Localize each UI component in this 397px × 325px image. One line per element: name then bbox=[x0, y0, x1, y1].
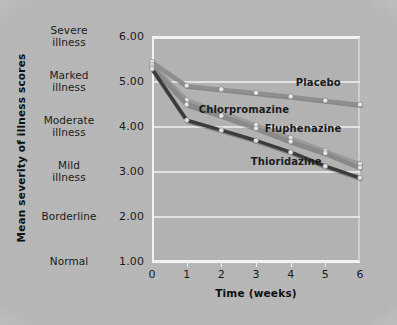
y-axis-category-label: Borderline bbox=[28, 211, 110, 223]
data-point-marker bbox=[358, 102, 363, 107]
y-axis-category-line: illness bbox=[28, 37, 110, 49]
y-axis-category-line: Mild bbox=[28, 160, 110, 172]
y-axis-tick-label: 4.00 bbox=[110, 120, 144, 133]
x-axis-tick-label: 1 bbox=[179, 268, 195, 281]
figure-root: SevereillnessMarkedillnessModerateillnes… bbox=[0, 0, 397, 325]
data-point-marker bbox=[254, 138, 259, 143]
x-axis-tick-mark bbox=[187, 262, 188, 267]
series-label-chlorpromazine: Chlorpromazine bbox=[199, 104, 289, 115]
data-point-marker bbox=[358, 175, 363, 180]
y-axis-category-line: illness bbox=[28, 127, 110, 139]
data-point-marker bbox=[288, 139, 293, 144]
data-point-marker bbox=[323, 98, 328, 103]
data-point-marker bbox=[254, 126, 259, 131]
series-label-thioridazine: Thioridazine bbox=[251, 156, 322, 167]
y-axis-tick-label: 2.00 bbox=[110, 210, 144, 223]
y-axis-category-line: Normal bbox=[28, 256, 110, 268]
y-axis-category-label: Moderateillness bbox=[28, 115, 110, 138]
y-axis-tick-label: 5.00 bbox=[110, 75, 144, 88]
x-axis-tick-label: 5 bbox=[317, 268, 333, 281]
y-axis-title: Mean severity of illness scores bbox=[15, 53, 27, 243]
y-axis-category-label: Severeillness bbox=[28, 25, 110, 48]
gridlines bbox=[152, 37, 360, 262]
data-point-marker bbox=[219, 128, 224, 133]
y-axis-category-label: Mildillness bbox=[28, 160, 110, 183]
y-axis-tick-label: 6.00 bbox=[110, 30, 144, 43]
series-label-fluphenazine: Fluphenazine bbox=[265, 123, 342, 134]
data-point-marker bbox=[219, 87, 224, 92]
y-axis-tick-label: 1.00 bbox=[110, 255, 144, 268]
data-point-marker bbox=[184, 102, 189, 107]
data-point-marker bbox=[184, 83, 189, 88]
data-point-marker bbox=[254, 90, 259, 95]
y-axis-tick-label: 3.00 bbox=[110, 165, 144, 178]
y-axis-category-label: Normal bbox=[28, 256, 110, 268]
y-axis-category-line: illness bbox=[28, 172, 110, 184]
series-label-placebo: Placebo bbox=[296, 77, 341, 88]
data-point-marker bbox=[184, 118, 189, 123]
x-axis-tick-mark bbox=[325, 262, 326, 267]
data-point-marker bbox=[150, 66, 155, 71]
x-axis-tick-label: 0 bbox=[144, 268, 160, 281]
y-axis-category-line: Marked bbox=[28, 70, 110, 82]
x-axis-tick-label: 2 bbox=[213, 268, 229, 281]
data-point-marker bbox=[323, 151, 328, 156]
x-axis-title: Time (weeks) bbox=[152, 287, 360, 299]
data-point-marker bbox=[323, 164, 328, 169]
x-axis-tick-mark bbox=[221, 262, 222, 267]
y-axis-category-line: illness bbox=[28, 82, 110, 94]
y-axis-category-line: Borderline bbox=[28, 211, 110, 223]
plot-canvas bbox=[152, 37, 360, 262]
x-axis-tick-mark bbox=[256, 262, 257, 267]
data-point-marker bbox=[358, 165, 363, 170]
x-axis-tick-label: 6 bbox=[352, 268, 368, 281]
data-point-marker bbox=[288, 150, 293, 155]
data-point-marker bbox=[288, 94, 293, 99]
x-axis-tick-label: 4 bbox=[283, 268, 299, 281]
y-axis-category-line: Severe bbox=[28, 25, 110, 37]
y-axis-category-label: Markedillness bbox=[28, 70, 110, 93]
x-axis-tick-label: 3 bbox=[248, 268, 264, 281]
x-axis-tick-mark bbox=[291, 262, 292, 267]
y-axis-category-line: Moderate bbox=[28, 115, 110, 127]
